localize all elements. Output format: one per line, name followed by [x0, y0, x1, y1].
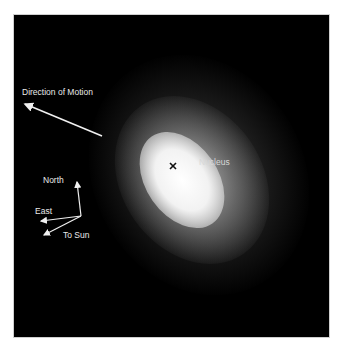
north-label: North	[43, 176, 64, 185]
east-label: East	[35, 207, 52, 216]
to-sun-label: To Sun	[63, 231, 89, 240]
nucleus-label: Nucleus	[199, 158, 230, 167]
direction-of-motion-label: Direction of Motion	[22, 88, 93, 97]
north-arrow-icon	[77, 182, 81, 216]
direction-of-motion-arrow-icon	[25, 104, 102, 136]
nucleus-marker-icon	[170, 163, 176, 169]
